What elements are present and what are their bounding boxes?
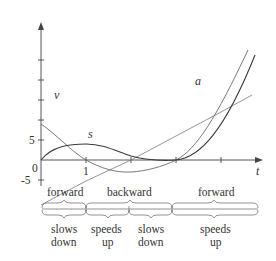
speed-label-line1: speeds xyxy=(200,223,231,236)
direction-row: forward backward forward xyxy=(42,186,258,208)
axes: t 0 1 5 -5 xyxy=(21,22,263,186)
y-tick-label-neg5: -5 xyxy=(21,174,31,186)
brace-speeds-up-1 xyxy=(86,210,129,218)
timeline xyxy=(42,206,258,212)
speed-label-line2: up xyxy=(210,236,222,249)
motion-diagram: t 0 1 5 -5 v s a forward backward forwar… xyxy=(0,0,276,261)
t-axis-label: t xyxy=(256,164,260,178)
t-axis-arrow-icon xyxy=(255,157,263,163)
speed-label-line1: speeds xyxy=(91,223,122,236)
brace-slows-down-1 xyxy=(42,210,86,218)
speed-label-line2: up xyxy=(102,236,114,249)
direction-label-forward-2: forward xyxy=(198,186,235,198)
y-axis-arrow-icon xyxy=(38,22,44,30)
speed-label-line2: down xyxy=(51,236,77,248)
curve-s xyxy=(41,55,255,160)
brace-slows-down-2 xyxy=(129,210,172,218)
y-tick-label-5: 5 xyxy=(29,134,35,146)
curve-label-a: a xyxy=(195,74,201,88)
direction-label-backward: backward xyxy=(107,186,152,198)
speed-label-line2: down xyxy=(138,236,164,248)
speed-label-line1: slows xyxy=(51,223,78,235)
curve-label-v: v xyxy=(54,88,60,102)
curve-label-s: s xyxy=(88,127,93,141)
speed-row: slows down speeds up slows down speeds u… xyxy=(42,210,258,249)
t-tick-label-1: 1 xyxy=(83,165,89,177)
direction-label-forward-1: forward xyxy=(47,186,84,198)
origin-label: 0 xyxy=(32,162,38,174)
curves: v s a xyxy=(41,50,255,205)
speed-label-line1: slows xyxy=(138,223,165,235)
brace-speeds-up-2 xyxy=(172,210,258,218)
brace-forward-2 xyxy=(172,200,258,208)
curve-v xyxy=(41,50,248,172)
